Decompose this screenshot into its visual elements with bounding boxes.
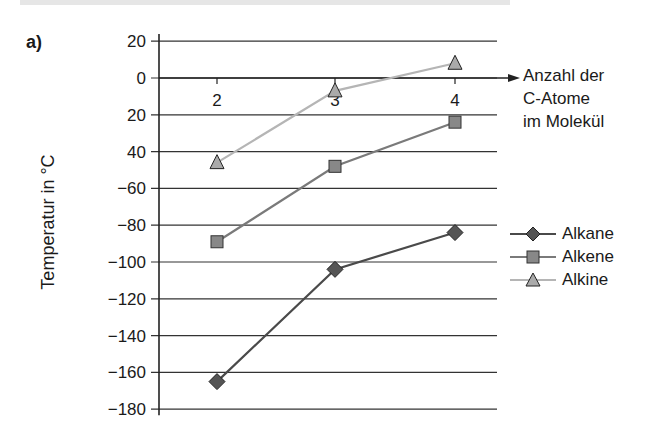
square-marker-icon [329, 160, 341, 172]
legend: Alkane Alkene Alkine [510, 222, 614, 291]
legend-label: Alkane [562, 224, 614, 244]
y-tick-label: 40 [127, 143, 146, 162]
x-axis-arrow-icon [508, 74, 520, 82]
diamond-marker-icon [510, 226, 556, 242]
y-tick-label: 20 [127, 106, 146, 125]
square-marker-icon [449, 116, 461, 128]
legend-item-alkine: Alkine [510, 268, 614, 291]
series-line-alkane [217, 233, 455, 382]
triangle-marker-icon [448, 55, 462, 69]
y-tick-label: −180 [108, 400, 146, 419]
y-tick-label: −160 [108, 363, 146, 382]
y-tick-label: 20 [127, 32, 146, 51]
legend-item-alkene: Alkene [510, 245, 614, 268]
legend-item-alkane: Alkane [510, 222, 614, 245]
square-marker-icon [510, 249, 556, 265]
legend-label: Alkine [562, 270, 608, 290]
legend-label: Alkene [562, 247, 614, 267]
x-tick-label: 4 [450, 91, 459, 110]
triangle-marker-icon [210, 155, 224, 169]
x-tick-label: 2 [212, 91, 221, 110]
y-tick-label: −100 [108, 253, 146, 272]
y-tick-label: −60 [117, 179, 146, 198]
y-tick-label: −140 [108, 327, 146, 346]
square-marker-icon [211, 236, 223, 248]
y-tick-label: −120 [108, 290, 146, 309]
triangle-marker-icon [510, 272, 556, 288]
diamond-marker-icon [447, 225, 463, 241]
y-tick-label: −80 [117, 216, 146, 235]
line-chart: 2002040−60−80−100−120−140−160−180234 [0, 0, 659, 439]
y-tick-label: 0 [137, 69, 146, 88]
